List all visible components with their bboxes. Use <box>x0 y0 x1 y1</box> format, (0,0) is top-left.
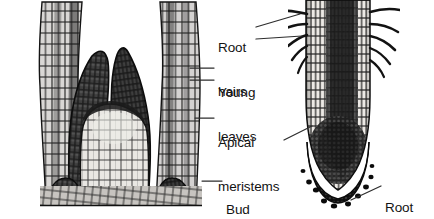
young-leaf-primordium-right <box>100 38 160 212</box>
root-body <box>298 0 392 202</box>
root-apical-meristem <box>308 116 368 184</box>
tunica-cap <box>82 101 145 123</box>
apical-dome-outline <box>80 104 148 205</box>
apical-meristem-domes <box>75 98 157 212</box>
axillary-bud-right <box>156 178 192 205</box>
sloughed-cap-cells <box>301 164 375 209</box>
axillary-bud-outline <box>46 178 82 205</box>
label-root-hairs-line1: Root <box>218 41 247 56</box>
figure-title: Shoot apex and root tip longitudinal sec… <box>0 21 1 22</box>
young-leaf-primordia <box>60 40 120 212</box>
older-leaf-left <box>30 0 100 212</box>
root-tip-illustration <box>288 0 400 214</box>
label-apical-meristems-line1: Apical <box>218 136 279 151</box>
label-root-cap: Root cap <box>385 172 413 219</box>
leader-root-hairs-upper <box>256 14 300 27</box>
young-leaf-right-outline <box>110 48 150 205</box>
root-cap-cells <box>307 142 369 203</box>
shoot-apex-illustration <box>0 0 218 212</box>
older-leaf-left-outline <box>39 2 82 205</box>
older-leaf-right <box>150 0 210 212</box>
root-stele <box>326 0 358 180</box>
axillary-bud-right-outline <box>156 178 192 205</box>
leader-lines <box>0 0 434 219</box>
leader-root-cap <box>351 186 381 200</box>
plant-meristem-figure: Shoot apex and root tip longitudinal sec… <box>0 0 434 219</box>
root-hair-projections <box>288 9 400 77</box>
label-bud-line1: Bud <box>226 203 250 218</box>
stem-base-tissue <box>40 186 202 206</box>
label-bud: Bud <box>226 174 250 219</box>
leader-root-hairs-lower <box>256 36 302 39</box>
label-young-leaves-line1: Young <box>218 86 256 101</box>
young-leaf-left-outline <box>69 51 110 205</box>
root-cap-sleeve <box>307 142 369 203</box>
root-outline <box>306 0 370 190</box>
leader-apical-meristem-root <box>284 126 312 140</box>
older-leaf-right-outline <box>156 2 200 205</box>
label-root-cap-line1: Root <box>385 201 413 216</box>
axillary-bud <box>46 178 82 205</box>
